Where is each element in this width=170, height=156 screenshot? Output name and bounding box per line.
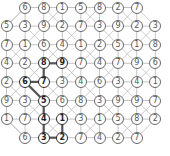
grid-node-r3-c5[interactable]: 1 — [75, 39, 87, 51]
grid-node-r5-c8[interactable]: 4 — [131, 76, 143, 88]
grid-node-r8-c4[interactable]: 2 — [56, 132, 68, 144]
grid-node-r4-c8[interactable]: 9 — [131, 57, 143, 69]
grid-node-r7-c6[interactable]: 1 — [94, 113, 106, 125]
grid-node-r5-c7[interactable]: 3 — [112, 76, 124, 88]
grid-node-r7-c8[interactable]: 8 — [131, 113, 143, 125]
grid-node-r8-c7[interactable]: 2 — [112, 132, 124, 144]
grid-node-r3-c1[interactable]: 7 — [1, 39, 13, 51]
grid-node-r6-c1[interactable]: 9 — [1, 95, 13, 107]
grid-node-r2-c1[interactable]: 5 — [1, 20, 13, 32]
grid-node-r4-c1[interactable]: 4 — [1, 57, 13, 69]
grid-node-r7-c5[interactable]: 3 — [75, 113, 87, 125]
grid-node-r8-c8[interactable]: 7 — [131, 132, 143, 144]
grid-node-r3-c3[interactable]: 6 — [38, 39, 50, 51]
grid-node-r1-c7[interactable]: 2 — [112, 2, 124, 14]
grid-node-r3-c4[interactable]: 4 — [56, 39, 68, 51]
grid-node-r2-c8[interactable]: 2 — [131, 20, 143, 32]
grid-node-r5-c6[interactable]: 6 — [94, 76, 106, 88]
grid-node-r8-c3[interactable]: 3 — [38, 132, 50, 144]
grid-node-r8-c2[interactable]: 6 — [19, 132, 31, 144]
grid-node-r6-c7[interactable]: 9 — [112, 95, 124, 107]
grid-node-r4-c3[interactable]: 8 — [38, 57, 50, 69]
grid-node-r7-c1[interactable]: 1 — [1, 113, 13, 125]
grid-node-r8-c6[interactable]: 4 — [94, 132, 106, 144]
grid-node-r6-c3[interactable]: 5 — [38, 95, 50, 107]
grid-node-r3-c6[interactable]: 2 — [94, 39, 106, 51]
grid-node-r1-c4[interactable]: 1 — [56, 2, 68, 14]
grid-node-r3-c7[interactable]: 5 — [112, 39, 124, 51]
grid-node-r6-c8[interactable]: 9 — [131, 95, 143, 107]
grid-node-r5-c1[interactable]: 2 — [1, 76, 13, 88]
grid-node-r2-c3[interactable]: 9 — [38, 20, 50, 32]
puzzle-board: 6815827539273923716412518428974796267346… — [0, 0, 170, 156]
grid-node-r3-c8[interactable]: 1 — [131, 39, 143, 51]
grid-node-r1-c2[interactable]: 6 — [19, 2, 31, 14]
grid-node-r6-c4[interactable]: 6 — [56, 95, 68, 107]
grid-node-r7-c3[interactable]: 4 — [38, 113, 50, 125]
grid-node-r5-c3[interactable]: 7 — [38, 76, 50, 88]
grid-node-r2-c5[interactable]: 7 — [75, 20, 87, 32]
grid-node-r6-c2[interactable]: 3 — [19, 95, 31, 107]
grid-node-r1-c8[interactable]: 7 — [131, 2, 143, 14]
grid-node-r1-c3[interactable]: 8 — [38, 2, 50, 14]
grid-node-r1-c6[interactable]: 8 — [94, 2, 106, 14]
grid-node-r1-c5[interactable]: 5 — [75, 2, 87, 14]
grid-node-r6-c5[interactable]: 8 — [75, 95, 87, 107]
grid-node-r4-c6[interactable]: 4 — [94, 57, 106, 69]
grid-node-r5-c2[interactable]: 6 — [19, 76, 31, 88]
grid-node-r3-c2[interactable]: 1 — [19, 39, 31, 51]
grid-node-r6-c6[interactable]: 3 — [94, 95, 106, 107]
grid-node-r2-c6[interactable]: 3 — [94, 20, 106, 32]
grid-node-r3-c9[interactable]: 8 — [149, 39, 161, 51]
grid-node-r5-c5[interactable]: 4 — [75, 76, 87, 88]
grid-node-r6-c9[interactable]: 7 — [149, 95, 161, 107]
grid-node-r8-c5[interactable]: 7 — [75, 132, 87, 144]
